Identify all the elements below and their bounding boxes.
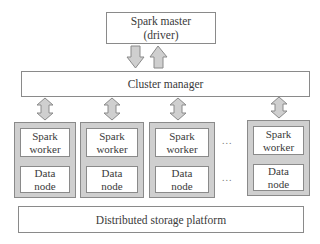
cluster-manager-label: Cluster manager — [128, 77, 204, 91]
double-arrow-icon — [271, 97, 287, 118]
worker-node-4: Spark worker Data node — [247, 120, 310, 196]
worker-node-2: Spark worker Data node — [80, 122, 144, 198]
distributed-storage-box: Distributed storage platform — [18, 206, 304, 233]
distributed-storage-label: Distributed storage platform — [96, 213, 226, 227]
spark-worker-box: Spark worker — [86, 128, 138, 157]
spark-master-label: Spark master (driver) — [131, 14, 191, 42]
double-arrow-icon — [170, 98, 186, 120]
ellipsis-top: ... — [222, 135, 233, 146]
spark-worker-label: Spark worker — [263, 128, 294, 154]
data-node-label: Data node — [268, 165, 289, 191]
spark-worker-label: Spark worker — [96, 130, 127, 156]
spark-worker-box: Spark worker — [155, 128, 209, 157]
data-node-box: Data node — [253, 164, 304, 191]
data-node-box: Data node — [86, 166, 138, 193]
data-node-label: Data node — [34, 167, 55, 193]
data-node-label: Data node — [101, 167, 122, 193]
data-node-label: Data node — [171, 167, 192, 193]
ellipsis-bottom: ... — [222, 172, 233, 183]
worker-node-3: Spark worker Data node — [149, 122, 215, 198]
down-arrow-icon — [127, 46, 144, 68]
data-node-box: Data node — [20, 166, 70, 193]
spark-worker-box: Spark worker — [253, 126, 304, 155]
worker-node-1: Spark worker Data node — [14, 122, 76, 198]
double-arrow-icon — [104, 98, 120, 120]
up-arrow-icon — [150, 46, 167, 68]
cluster-manager-box: Cluster manager — [21, 71, 310, 97]
data-node-box: Data node — [155, 166, 209, 193]
spark-master-box: Spark master (driver) — [106, 12, 216, 44]
spark-worker-label: Spark worker — [166, 130, 197, 156]
spark-worker-box: Spark worker — [20, 128, 70, 157]
double-arrow-icon — [37, 98, 53, 120]
spark-worker-label: Spark worker — [29, 130, 60, 156]
